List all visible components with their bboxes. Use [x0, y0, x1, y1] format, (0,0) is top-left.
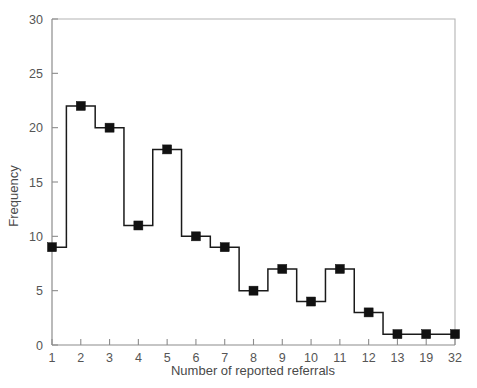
x-tick-label: 32 — [448, 351, 462, 365]
y-axis-ticks — [52, 19, 58, 345]
data-point-marker — [422, 330, 431, 339]
step-line-series — [52, 106, 455, 334]
chart-page: 051015202530 123456789101112131932 Frequ… — [0, 0, 477, 388]
data-point-marker — [307, 297, 316, 306]
data-point-marker — [191, 232, 200, 241]
y-tick-label: 30 — [29, 13, 43, 27]
x-tick-label: 2 — [77, 351, 84, 365]
y-tick-label: 0 — [36, 339, 43, 353]
data-point-marker — [163, 145, 172, 154]
data-point-markers — [48, 101, 460, 338]
x-tick-label: 1 — [49, 351, 56, 365]
data-point-marker — [76, 101, 85, 110]
step-chart: 051015202530 123456789101112131932 Frequ… — [0, 0, 477, 388]
y-tick-label: 5 — [36, 284, 43, 298]
y-axis-title: Frequency — [6, 165, 21, 227]
data-point-marker — [134, 221, 143, 230]
x-tick-label: 19 — [419, 351, 433, 365]
data-point-marker — [364, 308, 373, 317]
y-axis-tick-labels: 051015202530 — [29, 13, 43, 353]
data-point-marker — [220, 243, 229, 252]
x-tick-label: 13 — [390, 351, 404, 365]
x-tick-label: 12 — [362, 351, 376, 365]
data-point-marker — [278, 264, 287, 273]
data-point-marker — [335, 264, 344, 273]
y-tick-label: 10 — [29, 230, 43, 244]
x-tick-label: 11 — [333, 351, 346, 365]
data-point-marker — [105, 123, 114, 132]
plot-frame — [52, 19, 455, 345]
data-point-marker — [249, 286, 258, 295]
x-axis-ticks — [52, 339, 455, 345]
x-axis-title: Number of reported referrals — [171, 363, 336, 378]
y-tick-label: 25 — [29, 67, 43, 81]
x-tick-label: 5 — [164, 351, 171, 365]
data-point-marker — [451, 330, 460, 339]
x-tick-label: 4 — [135, 351, 142, 365]
y-tick-label: 15 — [29, 176, 43, 190]
x-tick-label: 3 — [106, 351, 113, 365]
y-tick-label: 20 — [29, 121, 43, 135]
data-point-marker — [393, 330, 402, 339]
data-point-marker — [48, 243, 57, 252]
